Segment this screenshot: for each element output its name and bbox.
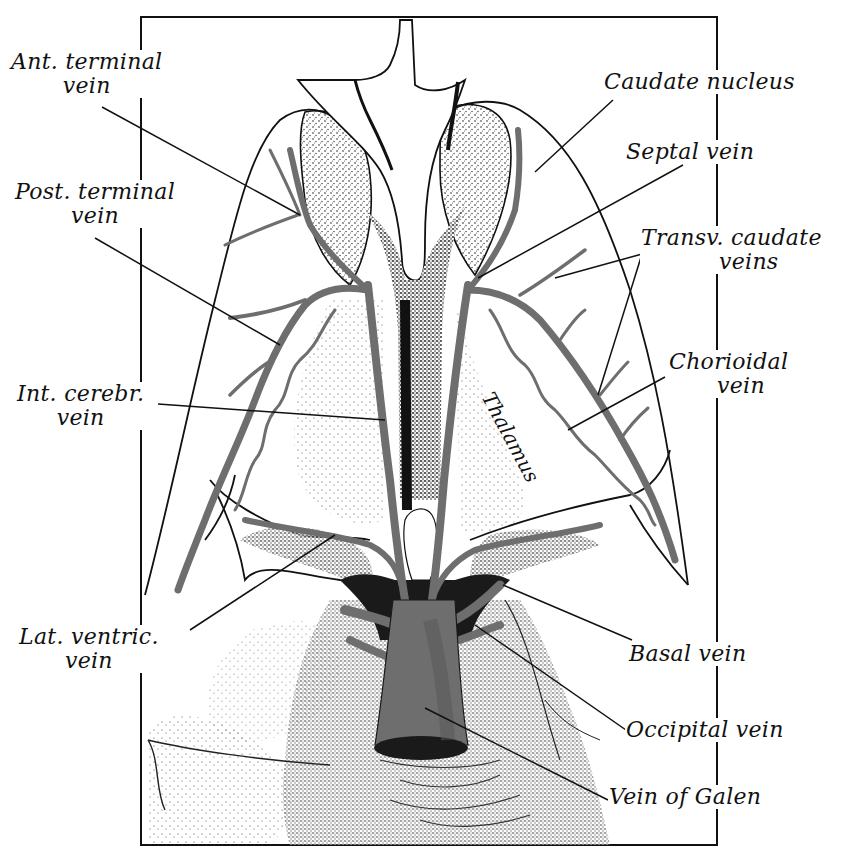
caudate-nucleus-leader	[535, 100, 613, 172]
label-septal-vein: Septal vein	[625, 140, 755, 164]
label-lat-ventric-vein: Lat. ventric. vein	[18, 625, 160, 673]
label-post-terminal-vein: Post. terminal vein	[14, 180, 176, 228]
label-chorioidal-vein: Chorioidal vein	[668, 350, 789, 398]
anatomy-figure: Ant. terminal vein Post. terminal vein I…	[0, 0, 850, 865]
label-caudate-nucleus: Caudate nucleus	[603, 70, 796, 94]
label-transv-caudate-veins: Transv. caudate veins	[640, 226, 823, 274]
label-occipital-vein: Occipital vein	[625, 718, 785, 742]
label-basal-vein: Basal vein	[628, 642, 747, 666]
transv-caudate-leader-a	[555, 254, 642, 278]
label-vein-of-galen: Vein of Galen	[608, 785, 762, 809]
transv-caudate-leader-b	[598, 254, 642, 395]
post-terminal-vein-leader	[95, 238, 280, 345]
chorioidal-vein-leader	[568, 377, 665, 430]
label-ant-terminal-vein: Ant. terminal vein	[10, 50, 163, 98]
label-int-cerebr-vein: Int. cerebr. vein	[16, 382, 145, 430]
